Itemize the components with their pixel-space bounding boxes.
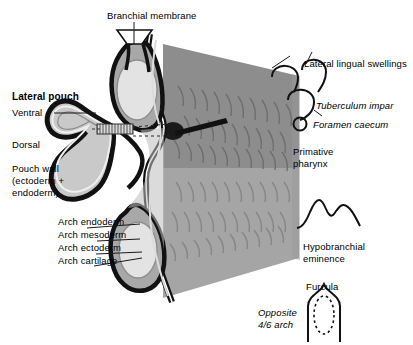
hypobranchial-eminence (297, 200, 360, 228)
primative-pharynx (163, 44, 300, 298)
pouch-neck (92, 124, 133, 134)
label-hypobranchial-line2: eminence (303, 253, 345, 264)
label-pouch-wall-line3: endoderm) (12, 187, 59, 198)
label-branchial-membrane: Branchial membrane (107, 10, 196, 21)
label-tuberculum-impar: Tuberculum impar (316, 100, 393, 111)
label-lateral-lingual-swellings: Lateral lingual swellings (304, 58, 407, 69)
label-pouch-wall-line1: Pouch wall (12, 163, 59, 174)
upper-arch-cartilage (117, 60, 157, 120)
diagram-canvas (0, 0, 413, 345)
label-dorsal: Dorsal (12, 139, 40, 150)
label-arch-mesoderm: Arch mesoderm (58, 229, 126, 240)
label-pouch-wall-line2: (ectoderm + (12, 175, 64, 186)
label-lateral-pouch: Lateral pouch (12, 91, 79, 102)
label-primative-pharynx-line1: Primative (293, 146, 334, 157)
label-furcula: Furcula (306, 281, 338, 292)
furcula-inner-oval (314, 296, 334, 334)
label-arch-cartilage: Arch cartilage (58, 255, 117, 266)
label-arch-endoderm: Arch endoderm (58, 216, 124, 227)
label-arch-ectoderm: Arch ectoderm (58, 242, 121, 253)
label-primative-pharynx-line2: pharynx (293, 158, 328, 169)
label-ventral: Ventral (12, 107, 42, 118)
label-opposite-line1: Opposite (258, 307, 297, 318)
label-hypobranchial-line1: Hypobranchial (303, 241, 365, 252)
label-opposite-line2: 4/6 arch (258, 319, 293, 330)
branchial-arch-figure: Branchial membrane Lateral pouch Ventral… (0, 0, 413, 345)
label-foramen-caecum: Foramen caecum (313, 119, 388, 130)
